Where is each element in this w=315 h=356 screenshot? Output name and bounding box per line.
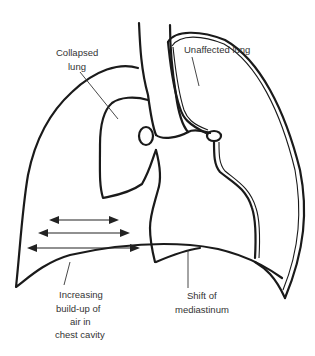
label-collapsed-lung-1: Collapsed <box>56 47 98 58</box>
label-mediastinum-1: Shift of <box>187 290 217 301</box>
arrow-2 <box>38 229 130 237</box>
label-collapsed-lung-2: lung <box>68 61 86 72</box>
air-leader <box>64 262 70 285</box>
label-air-2: build-up of <box>56 303 101 314</box>
label-air-1: Increasing <box>59 289 103 300</box>
collapsed-lung <box>100 98 156 198</box>
labels: Collapsed lung Unaffected lung Increasin… <box>55 44 250 340</box>
label-mediastinum-2: mediastinum <box>175 304 229 315</box>
arrow-1 <box>49 216 119 224</box>
trachea <box>139 23 188 138</box>
label-air-3: air in <box>70 316 91 327</box>
label-air-4: chest cavity <box>55 329 105 340</box>
pneumothorax-diagram: Collapsed lung Unaffected lung Increasin… <box>0 0 315 356</box>
label-unaffected-lung: Unaffected lung <box>184 44 250 55</box>
unaffected-lung-leader <box>192 57 199 86</box>
collapsed-lung-leader <box>80 72 118 119</box>
